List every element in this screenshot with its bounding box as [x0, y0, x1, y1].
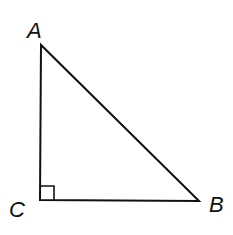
triangle-abc — [40, 45, 199, 201]
vertex-label-b: B — [209, 192, 224, 217]
right-angle-marker — [40, 186, 54, 200]
triangle-diagram: A C B — [0, 0, 233, 235]
vertex-label-c: C — [9, 197, 25, 222]
vertex-label-a: A — [25, 18, 42, 43]
